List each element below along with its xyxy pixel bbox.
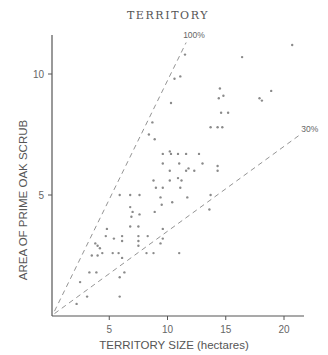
data-point [162,187,164,189]
data-point [94,242,96,244]
data-point [185,153,187,155]
reference-line-label: 100% [183,30,205,40]
data-point [129,194,131,196]
data-point [208,208,210,210]
reference-line-30pct [54,135,300,314]
data-point [216,126,218,128]
data-point [177,177,179,179]
x-axis-label: TERRITORY SIZE (hectares) [99,339,249,351]
y-tick-label: 5 [38,190,44,201]
data-point [148,133,150,135]
data-points [75,44,293,305]
data-point [95,271,97,273]
data-point [121,257,123,259]
data-point [219,87,221,89]
data-point [161,204,163,206]
x-tick-label: 5 [106,324,112,335]
data-point [96,245,98,247]
data-point [216,165,218,167]
data-point [91,254,93,256]
reference-line-label: 30% [301,124,318,134]
data-point [258,97,260,99]
data-point [162,228,164,230]
x-tick-label: 15 [220,324,232,335]
data-point [113,237,115,239]
data-point [179,187,181,189]
chart-title: TERRITORY [127,9,209,22]
data-point [112,252,114,254]
data-point [106,228,108,230]
data-point [137,245,139,247]
data-point [121,235,123,237]
data-point [155,187,157,189]
y-tick-label: 10 [33,69,45,80]
y-axis-label: AREA OF PRIME OAK SCRUB [17,119,29,280]
data-point [147,235,149,237]
data-point [119,276,121,278]
data-point [137,240,139,242]
data-point [130,216,132,218]
data-point [221,126,223,128]
data-point [129,206,131,208]
data-point [216,170,218,172]
data-point [270,90,272,92]
data-point [185,170,187,172]
data-point [162,162,164,164]
data-point [220,112,222,114]
data-point [159,196,161,198]
data-point [171,201,173,203]
scatter-chart: TERRITORY 100%30% 5101520 510 TERRITORY … [0,0,328,355]
data-point [137,225,139,227]
data-point [162,153,164,155]
data-point [186,196,188,198]
data-point [218,97,220,99]
y-axis-ticks: 510 [33,69,52,201]
data-point [241,56,243,58]
data-point [119,194,121,196]
data-point [178,162,180,164]
data-point [119,295,121,297]
data-point [75,303,77,305]
data-point [173,78,175,80]
data-point [261,99,263,101]
data-point [169,150,171,152]
data-point [169,170,171,172]
data-point [198,153,200,155]
data-point [99,247,101,249]
data-point [137,235,139,237]
data-point [131,211,133,213]
data-point [151,121,153,123]
data-point [179,75,181,77]
reference-line-100pct [54,43,186,312]
data-point [145,252,147,254]
data-point [201,162,203,164]
data-point [121,240,123,242]
data-point [86,295,88,297]
data-point [152,252,154,254]
data-point [209,126,211,128]
data-point [159,242,161,244]
data-point [129,225,131,227]
data-point [117,252,119,254]
data-point [291,44,293,46]
data-point [178,252,180,254]
data-point [227,112,229,114]
data-point [154,138,156,140]
data-point [123,271,125,273]
data-point [79,281,81,283]
data-point [170,102,172,104]
data-point [96,254,98,256]
data-point [180,179,182,181]
data-point [138,194,140,196]
data-point [101,252,103,254]
data-point [154,211,156,213]
data-point [187,167,189,169]
data-point [170,153,172,155]
data-point [138,213,140,215]
data-point [162,237,164,239]
data-point [184,53,186,55]
data-point [209,194,211,196]
data-point [88,271,90,273]
x-tick-label: 20 [278,324,290,335]
data-point [152,179,154,181]
